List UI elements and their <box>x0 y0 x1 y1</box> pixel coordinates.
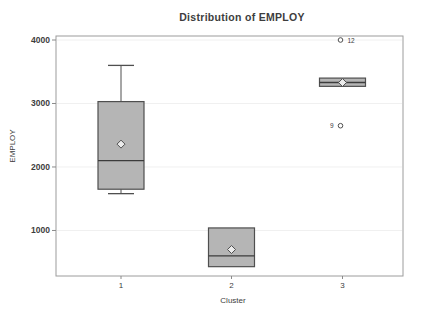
y-tick-label: 2000 <box>31 162 50 172</box>
y-tick-label: 1000 <box>31 225 50 235</box>
x-tick-label: 1 <box>119 281 124 290</box>
boxplot-chart: Distribution of EMPLOY EMPLOY Cluster 10… <box>0 0 422 325</box>
x-tick-label: 3 <box>340 281 345 290</box>
x-tick-label: 2 <box>229 281 234 290</box>
y-axis-label: EMPLOY <box>8 129 17 163</box>
outlier-point <box>338 38 343 43</box>
y-tick-label: 3000 <box>31 98 50 108</box>
outlier-label: 12 <box>348 37 356 44</box>
x-axis-label: Cluster <box>220 296 246 305</box>
y-tick-label: 4000 <box>31 35 50 45</box>
chart-title: Distribution of EMPLOY <box>179 11 305 23</box>
plot-area: 1000200030004000123129 <box>31 35 403 290</box>
outlier-label: 9 <box>330 122 334 129</box>
outlier-point <box>338 123 343 128</box>
boxplot-figure: Distribution of EMPLOY EMPLOY Cluster 10… <box>0 0 422 325</box>
